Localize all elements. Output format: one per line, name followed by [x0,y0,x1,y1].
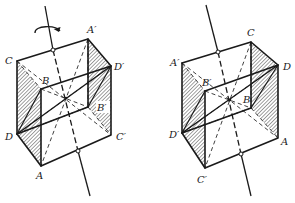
label-A: A [280,136,288,147]
label-B-prime: B′ [96,102,107,113]
left-cube: C A′ D′ B B′ D C′ A [4,6,127,196]
right-axis-inner [218,52,241,154]
label-D-prime: D′ [113,61,125,72]
cube-rotation-diagram: C A′ D′ B B′ D C′ A [0,0,295,203]
label-B: B [41,75,49,86]
label-C-prime: C′ [116,131,127,142]
left-axis-bottom [78,151,90,196]
right-axis-point-top [216,50,220,54]
left-axis-point-top [51,48,55,52]
label-D-prime: D′ [168,129,180,140]
label-C: C [5,55,13,66]
right-shaded-face-right [251,42,278,138]
label-B: B [242,94,250,105]
label-A-prime: A′ [169,57,180,68]
label-C-prime: C′ [197,174,208,185]
right-axis-point-bottom [239,152,243,156]
left-axis-top [45,6,53,50]
label-A-prime: A′ [86,24,97,35]
label-D: D [4,131,13,142]
label-C: C [247,27,255,38]
right-cube: C A′ D B′ B D′ A C′ [168,5,291,196]
left-axis-point-bottom [76,149,80,153]
label-D: D [282,61,291,72]
right-center-point [229,99,232,102]
label-A: A [35,170,43,181]
right-axis-top [206,5,218,52]
right-axis-bottom [241,154,251,196]
label-B-prime: B′ [201,77,212,88]
left-center-point [65,97,68,100]
